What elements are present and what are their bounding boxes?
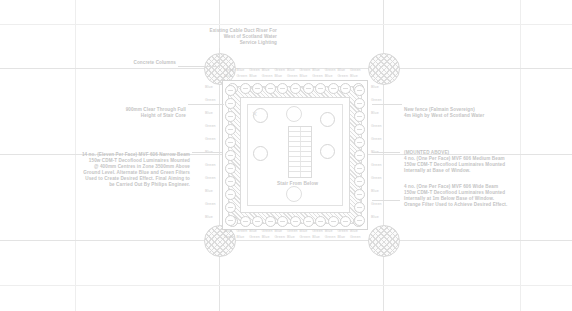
filter-label-left: Green <box>205 177 216 181</box>
concrete-column-top-right <box>368 53 400 85</box>
filter-label-bottom: Blue <box>350 230 358 234</box>
filter-label-bottom-lower: Blue <box>337 236 345 240</box>
perimeter-luminaire-top <box>265 83 276 94</box>
perimeter-luminaire-left <box>225 150 236 161</box>
gridline-vertical-col-right <box>383 0 384 311</box>
filter-label-right: Green <box>371 125 382 129</box>
filter-label-top-upper: Green <box>249 69 260 73</box>
stair-tread <box>289 141 311 142</box>
leader-concrete-columns <box>178 66 220 67</box>
filter-label-bottom: Blue <box>224 230 232 234</box>
perimeter-luminaire-bottom <box>303 216 314 227</box>
perimeter-luminaire-right <box>354 137 365 148</box>
filter-label-top: Green <box>262 75 273 79</box>
filter-label-bottom-lower: Green <box>325 236 336 240</box>
filter-label-top: Blue <box>300 75 308 79</box>
perimeter-luminaire-left <box>225 98 236 109</box>
stair-tread <box>289 166 311 167</box>
filter-label-bottom: Blue <box>300 230 308 234</box>
filter-label-top-upper: Blue <box>262 69 270 73</box>
filter-label-bottom-lower: Green <box>274 236 285 240</box>
gridline-horizontal-col-bottom <box>0 240 572 241</box>
note-line: Internally at Base of Window. <box>404 168 572 174</box>
perimeter-luminaire-top <box>303 83 314 94</box>
perimeter-luminaire-left <box>225 163 236 174</box>
perimeter-luminaire-right <box>354 163 365 174</box>
gridline-vertical-col-left <box>219 0 220 311</box>
concrete-column-bottom-right <box>368 225 400 257</box>
perimeter-luminaire-top <box>328 83 339 94</box>
filter-label-top-upper: Green <box>300 69 311 73</box>
filter-label-top: Green <box>287 75 298 79</box>
perimeter-luminaire-bottom <box>265 216 276 227</box>
filter-label-bottom: Blue <box>249 230 257 234</box>
perimeter-luminaire-right <box>354 111 365 122</box>
filter-label-top: Blue <box>224 75 232 79</box>
perimeter-luminaire-right <box>354 124 365 135</box>
narrow-beam-luminaire-note: 14 no. (Eleven Per Face) MVF 606 Narrow … <box>10 152 190 189</box>
medium-beam-luminaire-note: (MOUNTED ABOVE) 4 no. (One Per Face) MVF… <box>404 150 572 174</box>
note-line: Concrete Columns <box>60 60 176 66</box>
perimeter-luminaire-bottom <box>240 216 251 227</box>
perimeter-luminaire-bottom <box>328 216 339 227</box>
filter-label-top: Blue <box>249 75 257 79</box>
perimeter-luminaire-left <box>225 124 236 135</box>
inner-circle-upper <box>286 106 302 122</box>
filter-label-bottom-lower: Green <box>249 236 260 240</box>
existing-cable-duct-riser-note: Existing Cable Duct Riser For West of Sc… <box>100 28 277 46</box>
stair-flight <box>288 126 312 178</box>
corner-luminaire-bottom-left <box>253 146 268 161</box>
perimeter-luminaire-top <box>240 83 251 94</box>
filter-label-top: Blue <box>350 75 358 79</box>
leader-new-fence <box>372 104 402 105</box>
filter-label-left: Green <box>205 125 216 129</box>
filter-label-left: Blue <box>205 216 213 220</box>
perimeter-luminaire-right <box>354 215 365 226</box>
perimeter-luminaire-right <box>354 202 365 213</box>
perimeter-luminaire-left <box>225 202 236 213</box>
filter-label-top-upper: Green <box>325 69 336 73</box>
filter-label-top-upper: Blue <box>312 69 320 73</box>
perimeter-luminaire-left <box>225 189 236 200</box>
perimeter-luminaire-right <box>354 98 365 109</box>
filter-label-bottom-lower: Blue <box>262 236 270 240</box>
note-line: be Carried Out By Philips Engineer. <box>10 182 190 188</box>
filter-label-top-upper: Green <box>274 69 285 73</box>
drawing-sheet: × Stair From Below BlueGreenBlueGreenGre… <box>0 0 572 311</box>
filter-label-top-upper: Blue <box>337 69 345 73</box>
filter-label-bottom-lower: Green <box>300 236 311 240</box>
filter-label-right: Green <box>371 177 382 181</box>
perimeter-luminaire-left <box>225 215 236 226</box>
filter-label-bottom: Green <box>262 230 273 234</box>
filter-label-bottom-lower: Green <box>350 236 361 240</box>
filter-label-bottom-lower: Blue <box>237 236 245 240</box>
note-line: 4m High by West of Scotland Water <box>404 113 569 119</box>
filter-label-left: Blue <box>205 112 213 116</box>
filter-label-left: Green <box>205 203 216 207</box>
stair-from-below-label: Stair From Below <box>277 181 318 186</box>
corner-luminaire-top-right <box>320 112 335 127</box>
filter-label-top-upper: Green <box>350 69 361 73</box>
gridline-horizontal-col-top <box>0 68 572 69</box>
filter-label-right: Green <box>371 138 382 142</box>
filter-label-top: Green <box>237 75 248 79</box>
stair-tread <box>289 136 311 137</box>
inner-circle-lower <box>286 186 302 202</box>
filter-label-top: Blue <box>274 75 282 79</box>
filter-label-bottom: Green <box>337 230 348 234</box>
filter-label-left: Green <box>205 164 216 168</box>
perimeter-luminaire-left <box>225 176 236 187</box>
filter-label-right: Green <box>371 203 382 207</box>
filter-label-right: Blue <box>371 190 379 194</box>
filter-label-top-upper: Green <box>224 69 235 73</box>
filter-label-bottom: Green <box>312 230 323 234</box>
filter-label-top-upper: Blue <box>237 69 245 73</box>
stair-tread <box>289 151 311 152</box>
clear-through-height-note: 900mm Clear Through Full Height of Stair… <box>60 107 186 119</box>
wide-beam-luminaire-note: 4 no. (One Per Face) MVF 606 Wide Beam 1… <box>404 184 572 208</box>
stair-tread <box>289 146 311 147</box>
leader-wide-beam <box>372 200 400 201</box>
new-fence-note: New fence (Falmain Sovereign) 4m High by… <box>404 107 569 119</box>
note-line: Orange Filter Used to Achieve Desired Ef… <box>404 202 572 208</box>
leader-duct-riser <box>219 48 220 68</box>
